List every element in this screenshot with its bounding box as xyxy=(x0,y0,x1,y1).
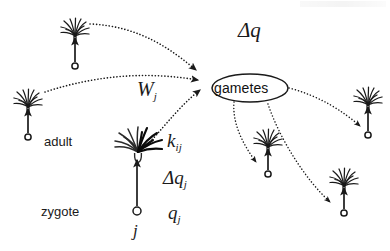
zygote-circle-right xyxy=(365,132,371,138)
delta-q-label: Δq xyxy=(238,20,261,41)
flow-out-to-right xyxy=(289,88,360,126)
index-j-label: j xyxy=(133,222,138,239)
w-j-label: Wj xyxy=(137,79,157,102)
flow-out-to-lower-middle xyxy=(234,102,256,162)
zygote-circle-lower-right xyxy=(341,210,347,216)
q-j-label: qj xyxy=(168,203,181,225)
focal-adult-palm-icon xyxy=(115,127,162,163)
figure-canvas: gametes Δq Wj adult kij Δqj zygote qj j xyxy=(0,0,390,251)
flow-in-from-far-left xyxy=(45,76,198,92)
zygote-circle-far-left xyxy=(25,134,31,140)
zygote-circle-lower-middle xyxy=(265,171,271,177)
k-ij-label: kij xyxy=(167,131,182,153)
zygote-label: zygote xyxy=(41,205,79,218)
focal-zygote-circle xyxy=(133,207,141,215)
delta-q-j-label: Δqj xyxy=(163,168,187,190)
adult-label: adult xyxy=(44,135,72,148)
gametes-label: gametes xyxy=(214,80,268,96)
zygote-circle-top-left xyxy=(72,63,78,69)
flow-out-to-lower-right xyxy=(268,104,330,202)
flow-in-from-top-left xyxy=(90,24,196,70)
